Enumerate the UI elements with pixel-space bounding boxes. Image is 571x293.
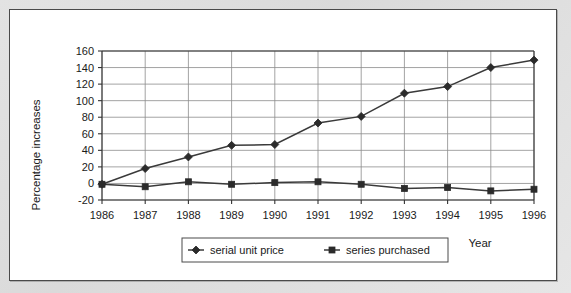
x-tick-label: 1989: [219, 209, 243, 221]
data-point-marker: [315, 179, 321, 185]
y-tick-label: 80: [82, 111, 94, 123]
data-point-marker: [531, 186, 537, 192]
data-point-marker: [488, 188, 494, 194]
y-tick-label: 140: [76, 62, 94, 74]
legend-marker-1: [329, 247, 335, 253]
data-point-marker: [357, 112, 365, 120]
data-point-marker: [141, 165, 149, 173]
data-point-marker: [530, 56, 538, 64]
y-tick-label: 100: [76, 95, 94, 107]
x-tick-label: 1991: [306, 209, 330, 221]
data-point-marker: [314, 119, 322, 127]
y-tick-label: 160: [76, 45, 94, 57]
scanned-page-background: Percentage increases -200204060801001201…: [0, 0, 571, 293]
x-tick-label: 1986: [90, 209, 114, 221]
data-point-marker: [228, 141, 236, 149]
y-tick-label: -20: [78, 194, 94, 206]
x-tick-label: 1996: [522, 209, 546, 221]
x-axis-title: Year: [468, 237, 491, 249]
x-tick-label: 1988: [176, 209, 200, 221]
data-point-marker: [142, 184, 148, 190]
chart-area: Percentage increases -200204060801001201…: [10, 10, 556, 280]
y-tick-labels: -20020406080100120140160: [76, 45, 94, 206]
x-tick-marks: [102, 200, 534, 204]
x-tick-label: 1995: [479, 209, 503, 221]
data-point-marker: [271, 141, 279, 149]
y-tick-label: 60: [82, 128, 94, 140]
data-point-marker: [401, 185, 407, 191]
line-chart-canvas: Percentage increases -200204060801001201…: [10, 10, 556, 280]
y-tick-label: 40: [82, 144, 94, 156]
chart-frame: Percentage increases -200204060801001201…: [9, 9, 557, 281]
chart-legend: serial unit priceseries purchased: [182, 238, 448, 262]
y-tick-label: 0: [88, 177, 94, 189]
legend-label-1: series purchased: [346, 244, 430, 256]
x-tick-label: 1990: [263, 209, 287, 221]
y-tick-marks: [98, 51, 102, 200]
x-tick-label: 1992: [349, 209, 373, 221]
data-point-marker: [229, 181, 235, 187]
y-axis-title: Percentage increases: [30, 99, 42, 210]
x-tick-label: 1993: [392, 209, 416, 221]
data-point-marker: [184, 153, 192, 161]
data-point-marker: [487, 64, 495, 72]
x-tick-labels: 1986198719881989199019911992199319941995…: [90, 209, 546, 221]
data-point-marker: [400, 89, 408, 97]
data-point-marker: [99, 181, 105, 187]
x-tick-label: 1994: [435, 209, 459, 221]
data-point-marker: [185, 179, 191, 185]
data-point-marker: [445, 185, 451, 191]
y-tick-label: 120: [76, 78, 94, 90]
legend-label-0: serial unit price: [210, 244, 284, 256]
y-tick-label: 20: [82, 161, 94, 173]
x-tick-label: 1987: [133, 209, 157, 221]
data-point-marker: [272, 180, 278, 186]
data-point-marker: [358, 181, 364, 187]
